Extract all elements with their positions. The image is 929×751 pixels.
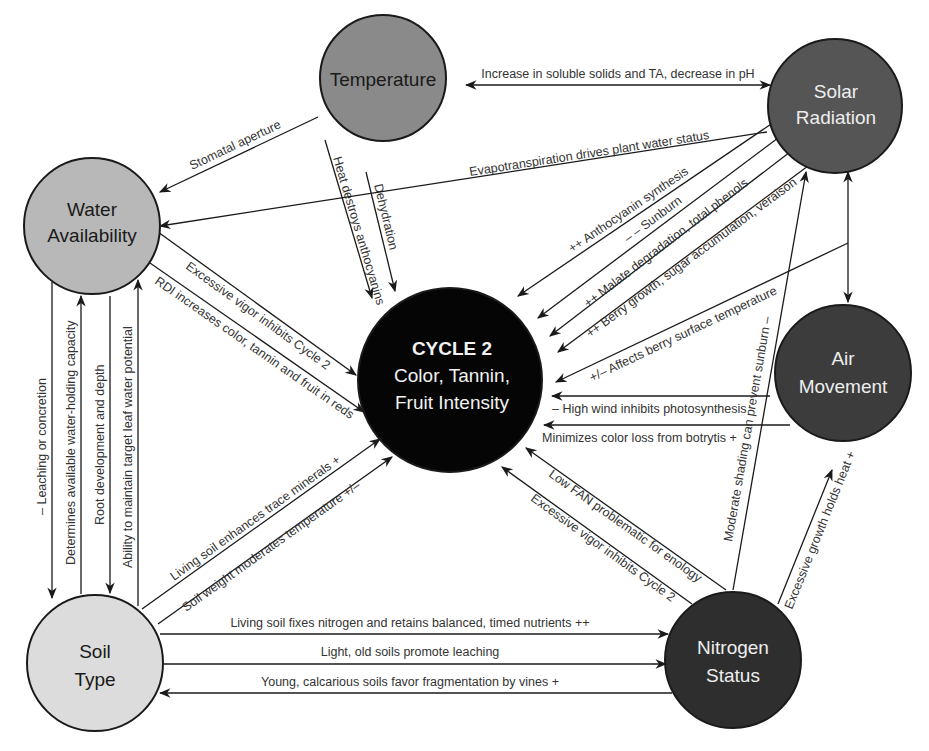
node-circle <box>775 305 911 441</box>
node-label: Color, Tannin, <box>394 365 510 386</box>
cycle-2-diagram: Increase in soluble solids and TA, decre… <box>0 0 929 751</box>
edge-label: Excessive growth holds heat + <box>782 449 858 611</box>
edge-soil-water-ability: Ability to maintain target leaf water po… <box>121 280 138 606</box>
node-label: Type <box>74 669 115 690</box>
edge-label: – High wind inhibits photosynthesis <box>552 402 747 416</box>
edge-water-soil-leaching: – Leaching or concretion <box>35 282 52 598</box>
edge-label: Stomatal aperture <box>187 117 283 172</box>
edge-label: Determines available water-holding capac… <box>64 320 78 565</box>
node-label: Radiation <box>796 107 876 128</box>
edge-air-center-wind: – High wind inhibits photosynthesis <box>552 396 770 416</box>
node-cycle-2-center: CYCLE 2 Color, Tannin, Fruit Intensity <box>358 288 542 472</box>
arrow-icon <box>150 263 364 412</box>
node-label: Status <box>706 665 760 686</box>
edge-label: Heat destroys anthocyanins <box>330 155 387 307</box>
node-temperature: Temperature <box>320 15 446 141</box>
edge-label: RDI increases color, tannin and fruit in… <box>152 274 356 422</box>
arrow-icon <box>160 117 318 192</box>
edge-label: – Leaching or concretion <box>35 378 49 515</box>
node-soil-type: Soil Type <box>27 595 163 731</box>
edge-label: Living soil fixes nitrogen and retains b… <box>230 616 589 630</box>
node-label: Temperature <box>330 69 437 90</box>
node-nitrogen-status: Nitrogen Status <box>665 592 801 728</box>
node-label: Movement <box>799 376 888 397</box>
node-air-movement: Air Movement <box>775 305 911 441</box>
edge-soil-water-capacity: Determines available water-holding capac… <box>64 296 81 594</box>
edge-water-center-rdi: RDI increases color, tannin and fruit in… <box>150 263 364 422</box>
edge-temperature-solar: Increase in soluble solids and TA, decre… <box>466 67 770 85</box>
edge-soil-center-living: Living soil enhances trace minerals + <box>142 439 380 609</box>
edge-nitrogen-center-vigor: Excessive vigor inhibits Cycle 2 <box>502 467 692 604</box>
edge-nitrogen-soil-young: Young, calcarious soils favor fragmentat… <box>160 675 672 693</box>
edge-temperature-water: Stomatal aperture <box>160 117 318 192</box>
node-label: Solar <box>814 81 859 102</box>
node-circle <box>768 39 902 173</box>
edge-soil-water-root: Root development and depth <box>93 296 110 593</box>
edge-soil-center-weight: Soil weight moderates temperature +/– <box>158 457 392 624</box>
edge-label: Minimizes color loss from botrytis + <box>542 431 737 445</box>
node-label: Air <box>831 348 855 369</box>
node-solar-radiation: Solar Radiation <box>768 39 902 173</box>
edge-soil-nitrogen-light: Light, old soils promote leaching <box>164 645 666 664</box>
node-label: Water <box>67 199 118 220</box>
node-circle <box>665 592 801 728</box>
edge-label: Young, calcarious soils favor fragmentat… <box>261 675 559 689</box>
node-circle <box>27 595 163 731</box>
edge-label: ++ Berry growth, sugar accumulation, ver… <box>583 175 799 340</box>
center-title: CYCLE 2 <box>412 338 492 359</box>
node-label: Nitrogen <box>697 637 769 658</box>
edge-label: Increase in soluble solids and TA, decre… <box>481 67 754 81</box>
edge-label: Ability to maintain target leaf water po… <box>121 326 135 568</box>
edge-soil-nitrogen-fixes: Living soil fixes nitrogen and retains b… <box>160 616 668 634</box>
edge-label: Light, old soils promote leaching <box>321 645 500 659</box>
edge-nitrogen-air-growth: Excessive growth holds heat + <box>778 449 858 611</box>
node-label: Availability <box>47 225 137 246</box>
node-water-availability: Water Availability <box>24 158 160 294</box>
edge-label: Root development and depth <box>93 364 107 525</box>
arrow-icon <box>142 439 380 609</box>
node-label: Fruit Intensity <box>395 392 510 413</box>
node-label: Soil <box>79 641 111 662</box>
